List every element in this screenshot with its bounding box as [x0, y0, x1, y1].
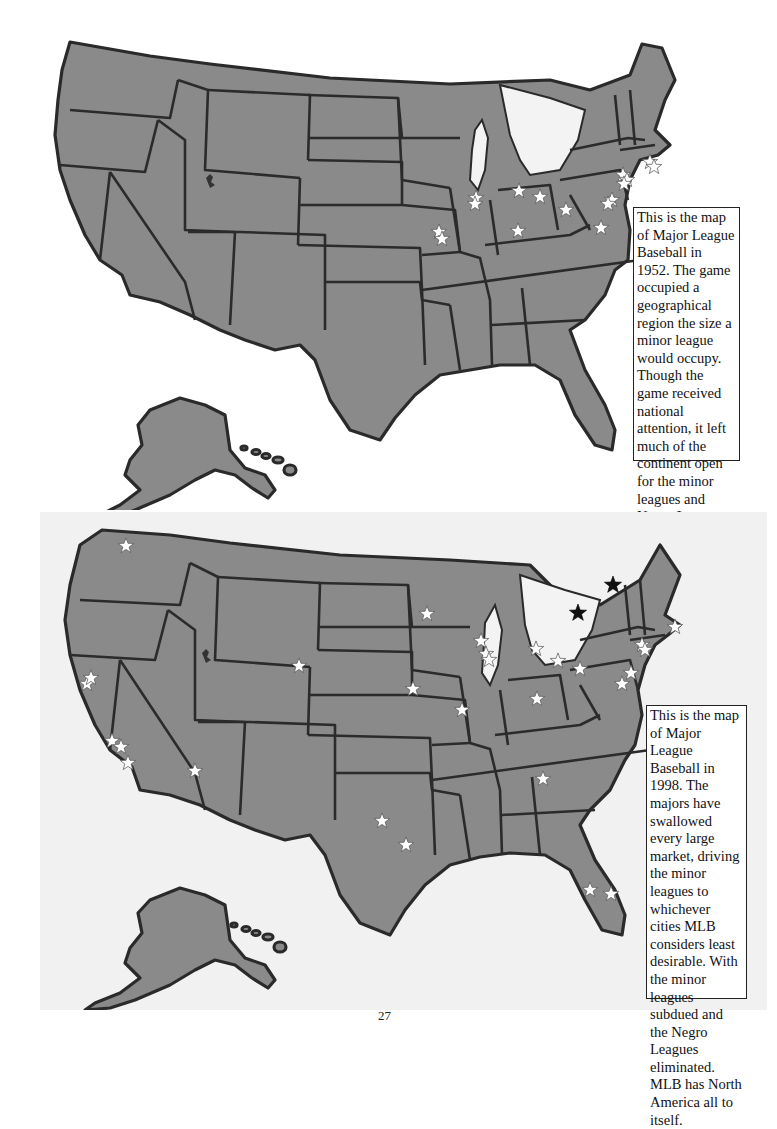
alaska-shape [85, 888, 275, 1010]
us-map-1952 [30, 20, 710, 510]
caption-1998-text: This is the map of Major League Baseball… [650, 707, 742, 1128]
map-1998 [40, 505, 720, 1010]
hawaii-shape [231, 923, 286, 952]
caption-1952-text: This is the map of Major League Baseball… [637, 209, 734, 542]
us-map-1998 [40, 505, 720, 1010]
alaska-shape [80, 398, 275, 510]
page-number: 27 [378, 1008, 391, 1024]
contiguous-us-shape [65, 530, 680, 935]
caption-1952: This is the map of Major League Baseball… [633, 207, 740, 461]
caption-1998: This is the map of Major League Baseball… [646, 705, 747, 999]
star-icon-canada [604, 576, 621, 592]
map-1952 [30, 20, 710, 510]
